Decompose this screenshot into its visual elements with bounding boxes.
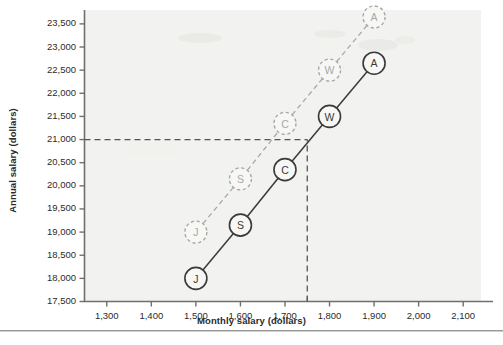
data-point-marker-W: W <box>319 59 341 81</box>
y-tick-label: 21,000 <box>8 133 76 144</box>
y-tick-label: 19,000 <box>8 226 76 237</box>
y-tick-label: 19,500 <box>8 202 76 213</box>
marker-label: A <box>371 11 378 23</box>
marker-label: J <box>193 273 198 285</box>
y-axis-title: Annual salary (dollars) <box>7 91 18 231</box>
salary-scatter-line-chart: JSCWAJSCWA 17,50018,00018,50019,00019,50… <box>0 0 503 345</box>
data-point-marker-W: W <box>319 105 341 127</box>
data-point-marker-C: C <box>274 159 296 181</box>
marker-label: J <box>193 226 198 238</box>
y-tick-label: 23,500 <box>8 17 76 28</box>
y-tick-label: 17,500 <box>8 295 76 306</box>
data-point-marker-S: S <box>229 168 251 190</box>
data-point-marker-S: S <box>229 214 251 236</box>
page-divider-rule <box>0 330 503 332</box>
marker-label: A <box>371 57 378 69</box>
y-tick-label: 21,500 <box>8 110 76 121</box>
data-point-marker-C: C <box>274 112 296 134</box>
y-tick-label: 20,000 <box>8 179 76 190</box>
data-point-marker-A: A <box>363 6 385 28</box>
marker-label: C <box>281 118 289 130</box>
y-tick-label: 20,500 <box>8 156 76 167</box>
marker-label: W <box>325 64 335 76</box>
x-axis-title: Monthly salary (dollars) <box>0 315 503 326</box>
data-point-marker-J: J <box>185 221 207 243</box>
y-tick-label: 18,500 <box>8 249 76 260</box>
marker-label: W <box>325 111 335 123</box>
y-tick-label: 23,000 <box>8 41 76 52</box>
marker-label: C <box>281 164 289 176</box>
chart-canvas: JSCWAJSCWA <box>0 0 503 345</box>
y-tick-label: 22,500 <box>8 64 76 75</box>
marker-label: S <box>237 219 244 231</box>
data-point-marker-J: J <box>185 267 207 289</box>
y-tick-label: 18,000 <box>8 272 76 283</box>
data-point-marker-A: A <box>363 52 385 74</box>
y-tick-label: 22,000 <box>8 87 76 98</box>
marker-label: S <box>237 173 244 185</box>
